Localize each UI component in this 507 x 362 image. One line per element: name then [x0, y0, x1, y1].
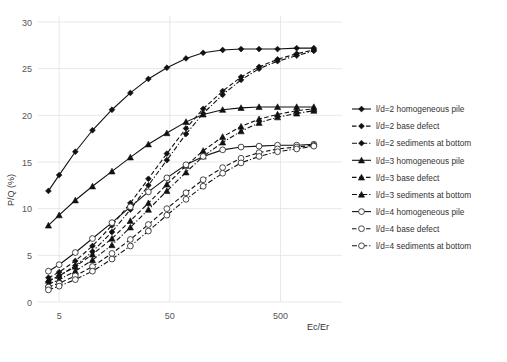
legend-item[interactable]: l/d=2 base defect [352, 121, 440, 131]
y-tick-label: 20 [22, 111, 32, 121]
chart-legend: l/d=2 homogeneous pilel/d=2 base defectl… [352, 104, 471, 251]
x-axis-ticks: 550500 [57, 311, 288, 321]
y-axis-title: P/Q (%) [6, 174, 16, 206]
legend-label: l/d=3 sediments at bottom [376, 190, 471, 200]
legend-label: l/d=2 homogeneous pile [376, 104, 465, 114]
legend-item[interactable]: l/d=4 homogeneous pile [352, 207, 465, 217]
legend-label: l/d=2 base defect [376, 121, 440, 131]
series-8 [46, 143, 317, 293]
x-tick-label: 50 [165, 311, 175, 321]
legend-item[interactable]: l/d=2 sediments at bottom [352, 138, 471, 148]
legend-item[interactable]: l/d=4 sediments at bottom [352, 241, 471, 251]
legend-item[interactable]: l/d=3 homogeneous pile [352, 156, 465, 166]
chart-figure: 051015202530 550500 l/d=2 homogeneous pi… [0, 0, 507, 362]
y-tick-label: 25 [22, 64, 32, 74]
legend-item[interactable]: l/d=2 homogeneous pile [352, 104, 465, 114]
y-tick-label: 10 [22, 204, 32, 214]
x-axis-title: Ec/Er [307, 322, 329, 332]
series-6 [46, 141, 317, 274]
y-tick-label: 30 [22, 18, 32, 28]
chart-container: 051015202530 550500 l/d=2 homogeneous pi… [0, 0, 507, 362]
legend-label: l/d=4 homogeneous pile [376, 207, 465, 217]
legend-label: l/d=4 base defect [376, 224, 440, 234]
legend-label: l/d=2 sediments at bottom [376, 138, 471, 148]
x-tick-label: 5 [57, 311, 62, 321]
legend-item[interactable]: l/d=4 base defect [352, 224, 440, 234]
series-1 [46, 47, 317, 281]
y-tick-label: 15 [22, 158, 32, 168]
legend-item[interactable]: l/d=3 sediments at bottom [352, 190, 471, 200]
series-2 [46, 48, 317, 284]
x-tick-label: 500 [273, 311, 288, 321]
legend-label: l/d=4 sediments at bottom [376, 241, 471, 251]
legend-label: l/d=3 base defect [376, 173, 440, 183]
legend-item[interactable]: l/d=3 base defect [352, 173, 440, 183]
series-7 [46, 142, 317, 290]
y-axis-ticks: 051015202530 [22, 18, 32, 308]
y-tick-label: 0 [27, 298, 32, 308]
legend-label: l/d=3 homogeneous pile [376, 156, 465, 166]
y-tick-label: 5 [27, 251, 32, 261]
series-3 [45, 104, 317, 228]
